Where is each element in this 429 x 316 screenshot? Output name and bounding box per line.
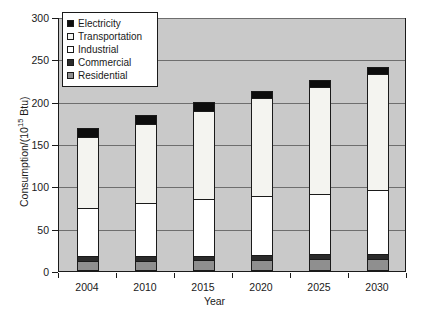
legend-item-electricity[interactable]: Electricity xyxy=(67,17,152,30)
x-tick-label-2015: 2015 xyxy=(191,281,214,293)
bar-2004[interactable] xyxy=(77,129,99,271)
segment-industrial-2020[interactable] xyxy=(251,196,273,255)
x-tick-1 xyxy=(116,273,117,278)
x-tick-5 xyxy=(348,273,349,278)
legend-item-industrial[interactable]: Industrial xyxy=(67,43,152,56)
y-tick-label-250: 250 xyxy=(31,54,49,66)
legend-item-commercial[interactable]: Commercial xyxy=(67,56,152,69)
y-axis-title: Consumption/(1015 Btu) xyxy=(16,77,30,227)
chart-legend: ElectricityTransportationIndustrialComme… xyxy=(62,12,158,87)
segment-residential-2025[interactable] xyxy=(309,259,331,271)
y-tick-label-0: 0 xyxy=(43,266,49,278)
x-tick-3 xyxy=(232,273,233,278)
bar-2020[interactable] xyxy=(251,92,273,271)
segment-industrial-2030[interactable] xyxy=(367,190,389,255)
segment-transportation-2015[interactable] xyxy=(193,111,215,200)
x-tick-label-2025: 2025 xyxy=(307,281,330,293)
segment-transportation-2010[interactable] xyxy=(135,124,157,204)
y-tick-label-300: 300 xyxy=(31,12,49,24)
y-tick-label-200: 200 xyxy=(31,97,49,109)
gridline-50 xyxy=(59,230,405,231)
x-tick-4 xyxy=(290,273,291,278)
segment-residential-2010[interactable] xyxy=(135,261,157,271)
segment-residential-2015[interactable] xyxy=(193,260,215,271)
x-tick-label-2004: 2004 xyxy=(75,281,98,293)
x-tick-end xyxy=(406,273,407,278)
segment-industrial-2025[interactable] xyxy=(309,194,331,255)
y-tick-label-50: 50 xyxy=(37,224,49,236)
segment-electricity-2015[interactable] xyxy=(193,102,215,111)
gridline-100 xyxy=(59,187,405,188)
gridline-200 xyxy=(59,103,405,104)
legend-swatch-residential xyxy=(67,72,74,79)
legend-label: Electricity xyxy=(78,19,121,29)
segment-residential-2030[interactable] xyxy=(367,259,389,271)
y-tick-label-100: 100 xyxy=(31,181,49,193)
segment-electricity-2004[interactable] xyxy=(77,128,99,138)
legend-label: Industrial xyxy=(78,45,119,55)
legend-label: Residential xyxy=(78,71,127,81)
segment-electricity-2025[interactable] xyxy=(309,80,331,88)
x-tick-0 xyxy=(58,273,59,278)
legend-swatch-industrial xyxy=(67,46,74,53)
bar-2025[interactable] xyxy=(309,81,331,271)
segment-electricity-2030[interactable] xyxy=(367,67,389,75)
bar-2015[interactable] xyxy=(193,103,215,271)
segment-transportation-2025[interactable] xyxy=(309,87,331,195)
segment-transportation-2004[interactable] xyxy=(77,137,99,209)
y-axis-title-exponent: 15 xyxy=(16,119,25,127)
x-tick-label-2010: 2010 xyxy=(133,281,156,293)
segment-electricity-2010[interactable] xyxy=(135,115,157,125)
legend-swatch-transportation xyxy=(67,33,74,40)
legend-item-residential[interactable]: Residential xyxy=(67,69,152,82)
legend-label: Transportation xyxy=(78,32,142,42)
bar-2030[interactable] xyxy=(367,68,389,271)
y-tick-50 xyxy=(52,230,58,231)
y-axis-title-prefix: Consumption/(10 xyxy=(18,127,30,207)
segment-industrial-2015[interactable] xyxy=(193,199,215,257)
segment-industrial-2010[interactable] xyxy=(135,203,157,257)
y-tick-300 xyxy=(52,18,58,19)
legend-label: Commercial xyxy=(78,58,131,68)
segment-transportation-2030[interactable] xyxy=(367,74,389,191)
segment-transportation-2020[interactable] xyxy=(251,98,273,197)
x-tick-label-2030: 2030 xyxy=(365,281,388,293)
legend-swatch-commercial xyxy=(67,59,74,66)
segment-electricity-2020[interactable] xyxy=(251,91,273,100)
stacked-bar-chart-figure: 050100150200250300 Consumption/(1015 Btu… xyxy=(0,0,429,316)
x-tick-label-2020: 2020 xyxy=(249,281,272,293)
bar-2010[interactable] xyxy=(135,116,157,271)
segment-residential-2020[interactable] xyxy=(251,260,273,271)
y-axis-title-suffix: Btu) xyxy=(18,97,30,119)
y-tick-150 xyxy=(52,145,58,146)
segment-residential-2004[interactable] xyxy=(77,261,99,271)
y-tick-label-150: 150 xyxy=(31,139,49,151)
y-tick-100 xyxy=(52,187,58,188)
y-tick-200 xyxy=(52,103,58,104)
x-axis-title: Year xyxy=(0,295,429,307)
gridline-150 xyxy=(59,145,405,146)
segment-industrial-2004[interactable] xyxy=(77,208,99,257)
legend-item-transportation[interactable]: Transportation xyxy=(67,30,152,43)
legend-swatch-electricity xyxy=(67,20,74,27)
x-tick-2 xyxy=(174,273,175,278)
y-tick-250 xyxy=(52,60,58,61)
